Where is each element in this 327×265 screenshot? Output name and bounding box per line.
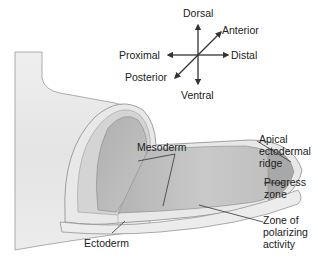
limb-bud-diagram: Dorsal Ventral Proximal Distal Anterior …	[0, 0, 327, 265]
label-posterior: Posterior	[125, 71, 168, 83]
label-progress-2: zone	[264, 188, 287, 200]
label-zpa-1: Zone of	[263, 214, 299, 226]
axis-compass	[168, 25, 228, 84]
label-zpa-2: polarizing	[263, 226, 308, 238]
posterior-arrow-icon	[175, 55, 198, 78]
label-zpa-3: activity	[263, 238, 296, 250]
anterior-arrow-icon	[198, 32, 221, 55]
label-anterior: Anterior	[222, 24, 259, 36]
label-ventral: Ventral	[181, 89, 214, 101]
label-aer-2: ectodermal	[259, 145, 311, 157]
label-ectoderm: Ectoderm	[84, 237, 129, 249]
label-aer-1: Apical	[259, 133, 288, 145]
label-mesoderm: Mesoderm	[137, 141, 187, 153]
label-aer-3: ridge	[259, 157, 283, 169]
label-dorsal: Dorsal	[183, 7, 213, 19]
label-progress-1: Progress	[264, 176, 306, 188]
label-distal: Distal	[231, 49, 257, 61]
label-proximal: Proximal	[119, 49, 160, 61]
